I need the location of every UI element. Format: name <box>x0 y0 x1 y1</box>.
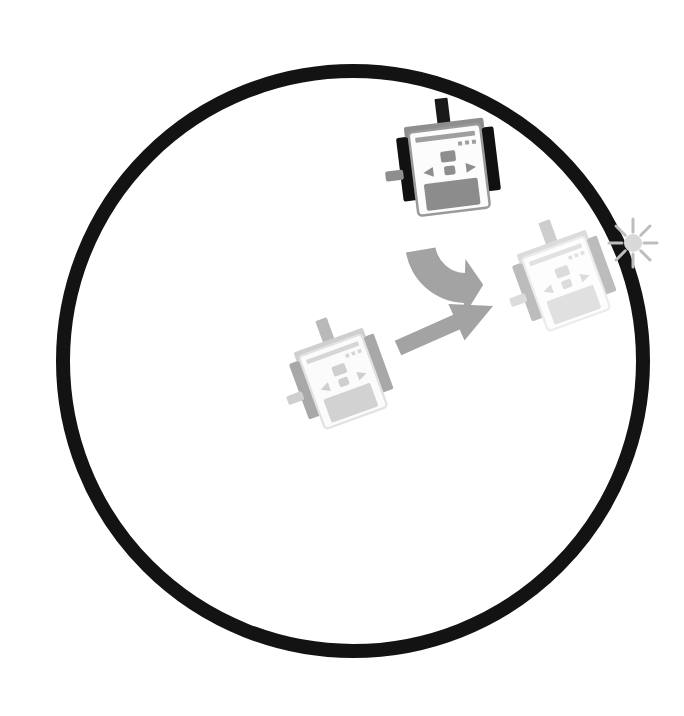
robot-caster <box>509 293 528 307</box>
light-ray <box>641 226 650 235</box>
robot-caster <box>286 391 305 405</box>
robot-start-pose <box>265 304 399 438</box>
robot-final-pose <box>377 92 503 219</box>
robot-port-b <box>465 140 469 144</box>
light-source-beacon <box>609 219 657 267</box>
robot-port-c <box>472 139 476 143</box>
scene-svg <box>0 0 684 716</box>
translation-arrow-shape <box>390 288 501 367</box>
robot-port-a <box>458 141 462 145</box>
diagram-canvas: Robot navigation within circular arena a… <box>0 0 684 716</box>
robot-exit-button <box>444 165 456 175</box>
robot-sensor-mast <box>434 98 450 125</box>
robot-light-facing-pose <box>488 206 622 340</box>
light-source-core <box>624 234 642 252</box>
light-ray <box>641 251 650 260</box>
translation-arrow <box>390 288 501 367</box>
robot-enter-button <box>440 150 456 163</box>
